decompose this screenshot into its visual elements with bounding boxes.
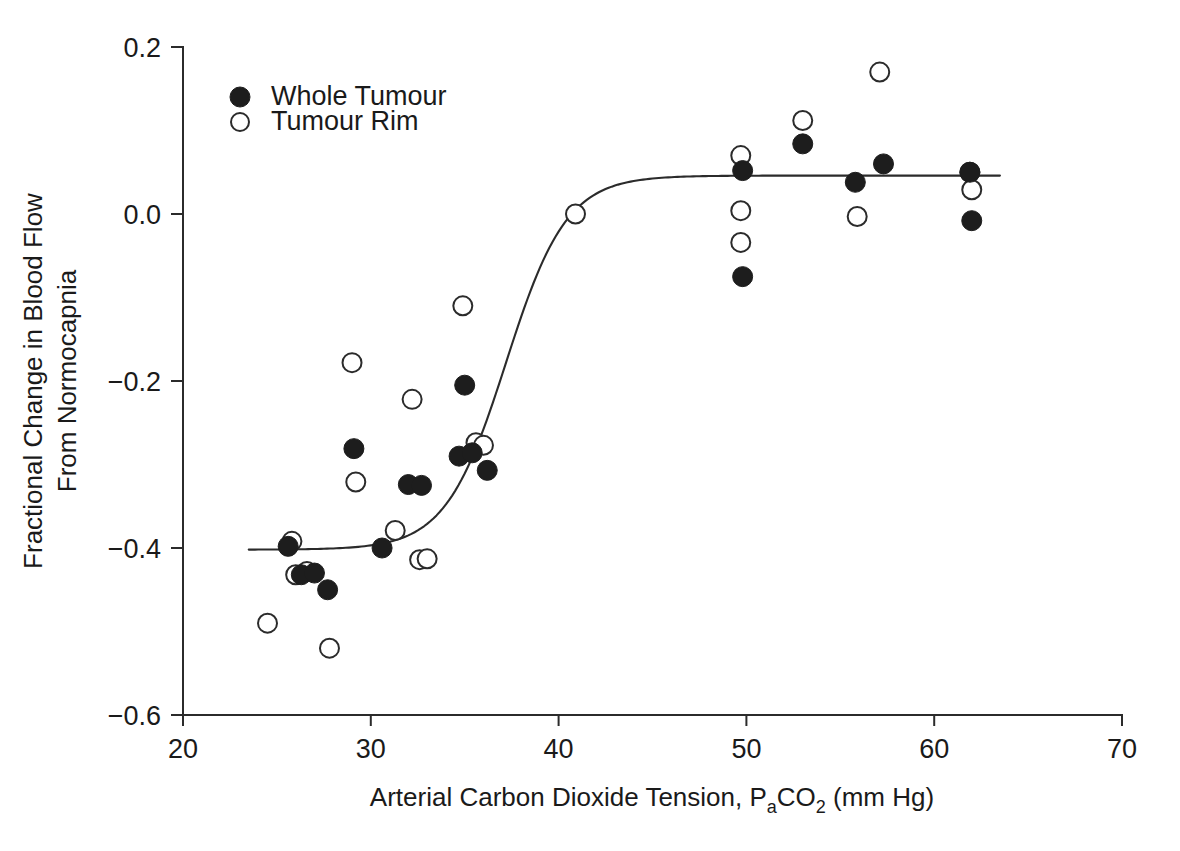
x-tick-label-20: 20 — [168, 734, 198, 764]
data-point — [962, 211, 982, 231]
x-tick-label-30: 30 — [356, 734, 386, 764]
data-point — [848, 207, 867, 226]
y-tick-label--0.2: −0.2 — [108, 367, 161, 397]
y-tick-label--0.6: −0.6 — [108, 701, 161, 731]
x-axis-title: Arterial Carbon Dioxide Tension, PaCO2 (… — [370, 782, 934, 817]
data-point — [372, 538, 392, 558]
data-point — [386, 521, 405, 540]
data-point — [403, 390, 422, 409]
data-point — [960, 162, 980, 182]
y-tick-label-0.0: 0.0 — [123, 200, 161, 230]
data-point — [462, 443, 482, 463]
data-point — [845, 172, 865, 192]
data-point — [733, 161, 753, 181]
data-point — [318, 580, 338, 600]
legend-marker-whole-tumour — [230, 87, 250, 107]
y-tick-label--0.4: −0.4 — [108, 534, 161, 564]
axis-tick-labels: 2030405060700.20.0−0.2−0.4−0.6 — [108, 33, 1137, 764]
data-point — [346, 473, 365, 492]
y-axis-title: Fractional Change in Blood Flow From Nor… — [18, 193, 82, 569]
x-axis-title-lead: Arterial Carbon Dioxide Tension, P — [370, 782, 767, 812]
data-point — [873, 154, 893, 174]
data-point — [455, 375, 475, 395]
data-point — [962, 180, 981, 199]
data-point — [566, 205, 585, 224]
data-point — [304, 563, 324, 583]
data-point — [344, 439, 364, 459]
data-point — [731, 201, 750, 220]
data-point — [343, 353, 362, 372]
data-point — [733, 267, 753, 287]
x-axis-title-mid: CO — [777, 782, 816, 812]
y-axis-title-line1: Fractional Change in Blood Flow — [18, 193, 48, 569]
legend-label-tumour-rim: Tumour Rim — [271, 106, 419, 136]
data-point — [793, 134, 813, 154]
y-tick-label-0.2: 0.2 — [123, 33, 161, 63]
x-axis-title-tail: (mm Hg) — [826, 782, 934, 812]
data-point — [453, 296, 472, 315]
data-point — [870, 63, 889, 82]
x-tick-label-70: 70 — [1107, 734, 1137, 764]
data-point — [477, 460, 497, 480]
data-point — [418, 549, 437, 568]
plot-axes — [183, 47, 1122, 715]
legend-marker-tumour-rim — [231, 113, 249, 131]
series-whole-tumour-points — [278, 134, 982, 600]
data-point — [793, 111, 812, 130]
data-point — [278, 536, 298, 556]
data-point — [412, 475, 432, 495]
chart-figure: 2030405060700.20.0−0.2−0.4−0.6 Whole Tum… — [0, 0, 1180, 851]
x-tick-label-40: 40 — [544, 734, 574, 764]
series-tumour-rim-points — [258, 63, 981, 658]
x-tick-label-60: 60 — [919, 734, 949, 764]
y-axis-title-line2: From Normocapnia — [52, 269, 82, 492]
chart-legend: Whole Tumour Tumour Rim — [230, 81, 447, 136]
data-point — [258, 614, 277, 633]
axis-ticks — [171, 47, 1122, 726]
scatter-plot: 2030405060700.20.0−0.2−0.4−0.6 Whole Tum… — [0, 0, 1180, 851]
data-point — [320, 639, 339, 658]
data-point — [731, 233, 750, 252]
x-axis-title-sub-2: 2 — [816, 797, 826, 817]
x-tick-label-50: 50 — [731, 734, 761, 764]
